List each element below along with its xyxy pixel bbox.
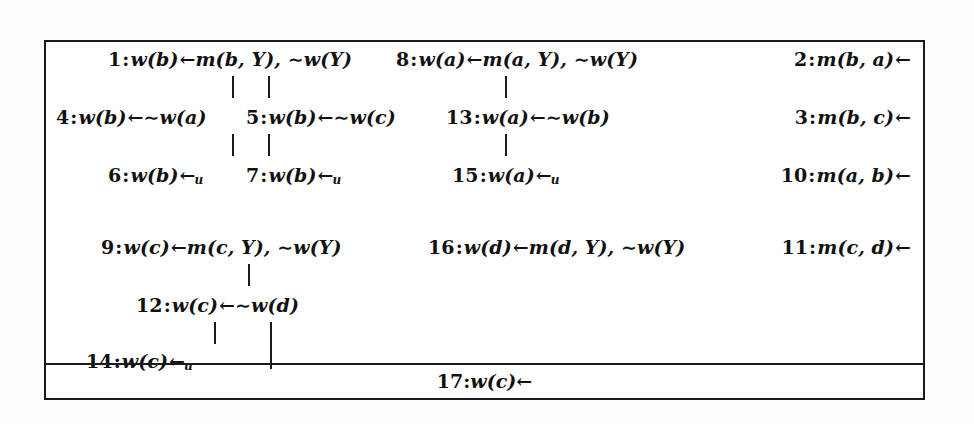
clause-15-arrow: ← xyxy=(535,164,552,186)
clause-13-arrow: ← xyxy=(529,106,546,128)
clause-15-head: w(a) xyxy=(488,164,535,186)
connector-12-to-14 xyxy=(214,322,216,344)
clause-16: 16:w(d)←m(d, Y), ∼w(Y) xyxy=(428,238,685,257)
clause-8: 8:w(a)←m(a, Y), ∼w(Y) xyxy=(396,50,638,69)
clause-1-index: 1 xyxy=(108,48,121,70)
clause-11-colon: : xyxy=(808,236,817,258)
clause-2-index: 2 xyxy=(794,48,807,70)
clause-16-body: m(d, Y), ∼w(Y) xyxy=(529,236,686,258)
clause-16-arrow: ← xyxy=(512,236,529,258)
clause-6-head: w(b) xyxy=(130,164,178,186)
clause-4-arrow: ← xyxy=(126,106,143,128)
connector-4-to-6 xyxy=(232,134,234,156)
clause-17: 17:w(c)← xyxy=(46,372,923,391)
clause-1-arrow: ← xyxy=(178,48,195,70)
clause-12-arrow: ← xyxy=(218,294,235,316)
clause-10-head: m(a, b) xyxy=(816,164,894,186)
clause-4-head: w(b) xyxy=(78,106,126,128)
clause-5: 5:w(b)←∼w(c) xyxy=(246,108,396,127)
clause-2-arrow: ← xyxy=(894,48,911,70)
clause-3-head: m(b, c) xyxy=(817,106,894,128)
clause-9: 9:w(c)←m(c, Y), ∼w(Y) xyxy=(101,238,342,257)
clause-4-index: 4 xyxy=(56,106,69,128)
clause-12-body: ∼w(d) xyxy=(235,294,299,316)
connector-1-to-4 xyxy=(232,76,234,98)
clause-5-head: w(b) xyxy=(268,106,316,128)
clause-8-arrow: ← xyxy=(466,48,483,70)
clause-9-head: w(c) xyxy=(123,236,169,258)
clause-15: 15:w(a)←u xyxy=(452,166,560,186)
clause-14: 14:w(c)←u xyxy=(86,352,193,372)
clause-13-colon: : xyxy=(473,106,482,128)
clause-11-head: m(c, d) xyxy=(817,236,894,258)
clause-5-index: 5 xyxy=(246,106,259,128)
connector-1-to-5 xyxy=(268,76,270,98)
clause-9-index: 9 xyxy=(101,236,114,258)
clause-1-head: w(b) xyxy=(130,48,178,70)
clause-9-arrow: ← xyxy=(170,236,187,258)
clause-9-body: m(c, Y), ∼w(Y) xyxy=(187,236,342,258)
clause-15-subscript: u xyxy=(551,173,560,187)
connector-12-to-17 xyxy=(270,322,272,369)
clause-12-colon: : xyxy=(163,294,172,316)
clause-6: 6:w(b)←u xyxy=(108,166,203,186)
clause-14-index: 14 xyxy=(86,350,113,372)
clause-14-subscript: u xyxy=(184,359,193,373)
clause-11-arrow: ← xyxy=(894,236,911,258)
clause-3: 3:m(b, c)← xyxy=(795,108,911,127)
clause-16-head: w(d) xyxy=(464,236,512,258)
clause-5-body: ∼w(c) xyxy=(333,106,395,128)
derivation-figure-frame: 1:w(b)←m(b, Y), ∼w(Y) 4:w(b)←∼w(a) 5:w(b… xyxy=(44,40,925,400)
clause-12-index: 12 xyxy=(136,294,163,316)
clause-16-index: 16 xyxy=(428,236,455,258)
clause-11-index: 11 xyxy=(781,236,808,258)
connector-8-to-13 xyxy=(505,76,507,98)
connector-5-to-7 xyxy=(268,134,270,156)
clause-8-index: 8 xyxy=(396,48,409,70)
connector-9-to-12 xyxy=(248,264,250,286)
clause-7-arrow: ← xyxy=(316,164,333,186)
clause-11: 11:m(c, d)← xyxy=(781,238,911,257)
clause-1: 1:w(b)←m(b, Y), ∼w(Y) xyxy=(108,50,352,69)
clause-2: 2:m(b, a)← xyxy=(794,50,911,69)
clause-3-index: 3 xyxy=(795,106,808,128)
clause-17-head: w(c) xyxy=(470,370,516,392)
clause-10-arrow: ← xyxy=(894,164,911,186)
clause-10: 10:m(a, b)← xyxy=(781,166,911,185)
clause-13: 13:w(a)←∼w(b) xyxy=(446,108,610,127)
clause-12: 12:w(c)←∼w(d) xyxy=(136,296,299,315)
clause-12-head: w(c) xyxy=(172,294,218,316)
connector-13-to-15 xyxy=(505,134,507,156)
clause-7-head: w(b) xyxy=(268,164,316,186)
clause-13-index: 13 xyxy=(446,106,473,128)
clause-14-arrow: ← xyxy=(168,350,185,372)
clause-6-subscript: u xyxy=(194,173,203,187)
clause-6-index: 6 xyxy=(108,164,121,186)
clause-13-head: w(a) xyxy=(482,106,529,128)
clause-16-colon: : xyxy=(455,236,464,258)
clause-13-body: ∼w(b) xyxy=(546,106,610,128)
clause-3-colon: : xyxy=(808,106,817,128)
clause-17-arrow: ← xyxy=(516,370,532,392)
clause-7-subscript: u xyxy=(332,173,341,187)
clause-7-index: 7 xyxy=(246,164,259,186)
figure-page: 1:w(b)←m(b, Y), ∼w(Y) 4:w(b)←∼w(a) 5:w(b… xyxy=(0,0,974,424)
clause-4: 4:w(b)←∼w(a) xyxy=(56,108,206,127)
clause-14-colon: : xyxy=(113,350,122,372)
clause-15-colon: : xyxy=(479,164,488,186)
clause-8-body: m(a, Y), ∼w(Y) xyxy=(482,48,638,70)
clause-1-body: m(b, Y), ∼w(Y) xyxy=(195,48,352,70)
clause-2-head: m(b, a) xyxy=(816,48,894,70)
clause-10-index: 10 xyxy=(781,164,808,186)
goal-strip-divider xyxy=(46,363,923,365)
clause-7: 7:w(b)←u xyxy=(246,166,341,186)
clause-15-index: 15 xyxy=(452,164,479,186)
clause-5-arrow: ← xyxy=(316,106,333,128)
clause-17-index: 17 xyxy=(437,370,463,392)
clause-14-head: w(c) xyxy=(122,350,168,372)
clause-3-arrow: ← xyxy=(894,106,911,128)
clause-8-head: w(a) xyxy=(418,48,465,70)
clause-4-body: ∼w(a) xyxy=(143,106,206,128)
clause-6-arrow: ← xyxy=(178,164,195,186)
